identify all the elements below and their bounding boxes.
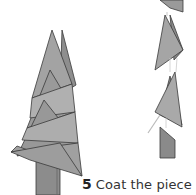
step-text: Coat the piece and [96,177,196,192]
step-caption: 5Coat the piece and [82,176,196,192]
exploded-view [148,0,183,158]
step-number: 5 [82,176,92,192]
assembled-tree [11,30,82,195]
tree-illustration [0,0,196,195]
